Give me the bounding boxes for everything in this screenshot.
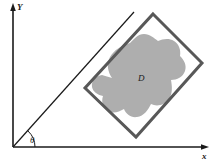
diagram-svg: Y x θ D: [0, 0, 215, 162]
x-axis-label: x: [201, 151, 207, 161]
angle-label: θ: [30, 135, 35, 145]
y-axis-label: Y: [17, 2, 24, 12]
y-axis-arrowhead: [10, 3, 16, 11]
region-d-label: D: [137, 73, 145, 83]
x-axis-arrowhead: [201, 144, 209, 150]
figure-container: Y x θ D: [0, 0, 215, 162]
